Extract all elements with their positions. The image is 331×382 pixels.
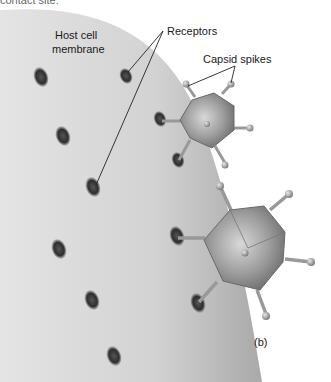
virus-attachment-diagram: contact site. Host cell membrane Recepto…: [0, 0, 331, 382]
panel-label: (b): [254, 336, 267, 349]
label-host-cell-line1: Host cell: [55, 29, 97, 42]
label-receptors: Receptors: [167, 25, 217, 38]
label-host-cell-line2: membrane: [52, 43, 105, 56]
label-capsid-spikes: Capsid spikes: [203, 53, 271, 66]
cut-off-caption: contact site.: [0, 0, 59, 6]
diagram-canvas: [0, 0, 331, 382]
